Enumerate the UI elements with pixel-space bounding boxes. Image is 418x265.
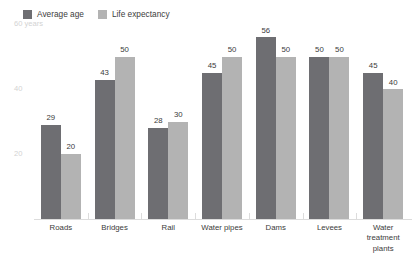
bar-group: 2830 xyxy=(141,18,195,219)
x-axis-category-label: Rail xyxy=(141,223,195,254)
y-axis-tick-20: 20 xyxy=(14,150,22,158)
bar[interactable] xyxy=(148,128,168,219)
bar-column[interactable]: 45 xyxy=(363,18,383,219)
bar-column[interactable]: 45 xyxy=(202,18,222,219)
bar-value-label: 50 xyxy=(315,46,324,54)
bar[interactable] xyxy=(383,89,403,219)
bar[interactable] xyxy=(309,57,329,219)
bar-groups: 2920435028304550565050504540 xyxy=(34,18,410,219)
bar[interactable] xyxy=(256,37,276,219)
bar-value-label: 43 xyxy=(100,69,109,77)
legend-label-average-age: Average age xyxy=(37,10,84,18)
x-axis-category-label: Levees xyxy=(303,223,357,254)
bar-chart: Average age Life expectancy 60 years 40 … xyxy=(0,0,418,265)
bar[interactable] xyxy=(95,80,115,219)
x-axis-category-label: Dams xyxy=(249,223,303,254)
bar[interactable] xyxy=(363,73,383,219)
bar-value-label: 50 xyxy=(228,46,237,54)
bar[interactable] xyxy=(115,57,135,219)
bar-column[interactable]: 40 xyxy=(383,18,403,219)
bar[interactable] xyxy=(329,57,349,219)
bar-value-label: 45 xyxy=(369,62,378,70)
bar-column[interactable]: 43 xyxy=(95,18,115,219)
bar-value-label: 30 xyxy=(174,111,183,119)
bar-value-label: 20 xyxy=(67,143,76,151)
bar[interactable] xyxy=(222,57,242,219)
bar-value-label: 50 xyxy=(281,46,290,54)
bar-group: 4540 xyxy=(356,18,410,219)
bar[interactable] xyxy=(276,57,296,219)
bar-value-label: 28 xyxy=(154,117,163,125)
bar-column[interactable]: 50 xyxy=(222,18,242,219)
bar-group: 4350 xyxy=(88,18,142,219)
bar-column[interactable]: 50 xyxy=(276,18,296,219)
bar-column[interactable]: 28 xyxy=(148,18,168,219)
bar[interactable] xyxy=(202,73,222,219)
bar-column[interactable]: 50 xyxy=(309,18,329,219)
bar-value-label: 40 xyxy=(389,79,398,87)
bar-group: 5050 xyxy=(303,18,357,219)
bar-column[interactable]: 56 xyxy=(256,18,276,219)
x-axis-category-label: Roads xyxy=(34,223,88,254)
bar-group: 5650 xyxy=(249,18,303,219)
bar-value-label: 56 xyxy=(261,27,270,35)
y-axis-tick-40: 40 xyxy=(14,85,22,93)
bar-value-label: 29 xyxy=(47,114,56,122)
legend-swatch-average-age xyxy=(23,10,32,19)
bar-group: 4550 xyxy=(195,18,249,219)
bar-column[interactable]: 50 xyxy=(329,18,349,219)
x-axis-category-label: Bridges xyxy=(88,223,142,254)
x-axis-category-label: Water pipes xyxy=(195,223,249,254)
bar-column[interactable]: 30 xyxy=(168,18,188,219)
bar-value-label: 50 xyxy=(120,46,129,54)
bar-column[interactable]: 50 xyxy=(115,18,135,219)
bar[interactable] xyxy=(61,154,81,219)
bar-value-label: 50 xyxy=(335,46,344,54)
x-axis-category-labels: RoadsBridgesRailWater pipesDamsLeveesWat… xyxy=(34,223,410,254)
plot-area: 2920435028304550565050504540 xyxy=(34,18,410,219)
bar-value-label: 45 xyxy=(208,62,217,70)
bar-group: 2920 xyxy=(34,18,88,219)
bar-column[interactable]: 20 xyxy=(61,18,81,219)
bar[interactable] xyxy=(41,125,61,219)
bar[interactable] xyxy=(168,122,188,219)
x-axis-category-label: Water treatment plants xyxy=(356,223,410,254)
x-axis-baseline xyxy=(34,219,412,220)
legend-label-life-expectancy: Life expectancy xyxy=(112,10,170,18)
bar-column[interactable]: 29 xyxy=(41,18,61,219)
